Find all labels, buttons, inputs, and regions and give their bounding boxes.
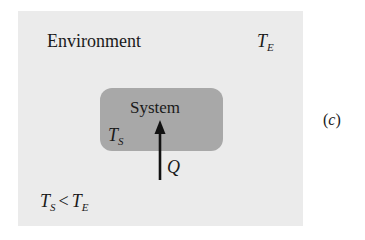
heat-flow-label: Q [167, 158, 180, 176]
panel-label: (c) [323, 112, 341, 128]
less-than-operator: < [59, 191, 69, 211]
system-temperature: TS [108, 126, 124, 147]
left-symbol: T [40, 191, 50, 211]
temp-symbol: T [257, 31, 267, 51]
environment-temperature: TE [257, 32, 274, 53]
right-subscript: E [82, 201, 89, 213]
environment-label: Environment [47, 32, 141, 50]
right-symbol: T [72, 191, 82, 211]
temp-subscript: E [267, 41, 274, 53]
system-label: System [130, 99, 180, 116]
left-subscript: S [50, 201, 56, 213]
temp-symbol: T [108, 125, 118, 145]
temperature-condition: TS<TE [40, 192, 88, 213]
paren-close: ) [335, 111, 340, 128]
temp-subscript: S [118, 135, 124, 147]
